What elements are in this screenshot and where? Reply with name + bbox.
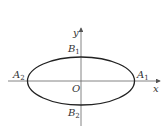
diagram-canvas: y x O B1 B2 A2 A1 xyxy=(0,0,168,136)
ellipse-diagram: y x O B1 B2 A2 A1 xyxy=(0,0,168,136)
vertex-b2-label: B2 xyxy=(67,107,80,120)
vertex-a2-label: A2 xyxy=(12,69,25,82)
origin-label: O xyxy=(72,83,80,94)
y-axis-label: y xyxy=(72,27,79,38)
x-axis-label: x xyxy=(153,83,159,94)
vertex-a1-label: A1 xyxy=(136,69,149,82)
vertex-b1-label: B1 xyxy=(67,43,80,56)
